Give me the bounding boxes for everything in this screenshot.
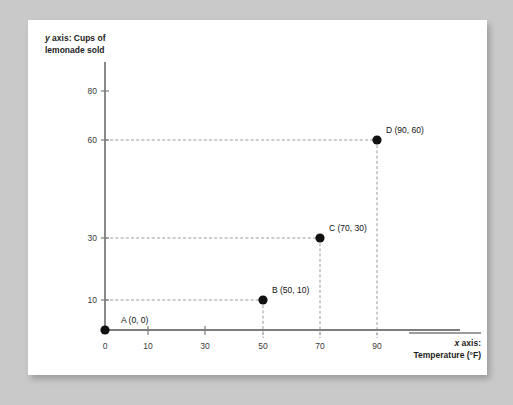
- y-axis-title-line2: lemonade sold: [45, 45, 105, 55]
- data-point-d: [372, 135, 381, 144]
- y-axis-title: y axis: Cups of lemonade sold: [45, 33, 105, 56]
- point-label-d: D (90, 60): [386, 125, 424, 135]
- x-tick-label-30: 30: [193, 341, 217, 351]
- chart-card: y axis: Cups of lemonade sold x axis: Te…: [28, 20, 487, 375]
- y-tick-label-10: 10: [75, 295, 97, 305]
- y-tick-label-60: 60: [75, 135, 97, 145]
- x-tick-label-90: 90: [365, 341, 389, 351]
- y-axis-title-prefix-rest: axis:: [50, 33, 74, 43]
- data-point-c: [315, 233, 324, 242]
- y-tick-label-30: 30: [75, 233, 97, 243]
- x-tick-label-70: 70: [308, 341, 332, 351]
- scatter-plot: y axis: Cups of lemonade sold x axis: Te…: [28, 20, 487, 375]
- x-axis-title-prefix-rest: axis:: [459, 338, 481, 348]
- data-point-a: [100, 325, 109, 334]
- plot-canvas: [28, 20, 487, 375]
- point-label-b: B (50, 10): [272, 285, 309, 295]
- x-tick-label-50: 50: [251, 341, 275, 351]
- y-tick-label-80: 80: [75, 86, 97, 96]
- x-tick-label-0: 0: [93, 341, 117, 351]
- x-axis-title-line2: Temperature (°F): [414, 350, 481, 360]
- y-axis-title-line1: Cups of: [74, 33, 106, 43]
- point-label-a: A (0, 0): [121, 315, 148, 325]
- screenshot-root: y axis: Cups of lemonade sold x axis: Te…: [0, 0, 513, 405]
- x-tick-label-10: 10: [136, 341, 160, 351]
- x-axis-title: x axis: Temperature (°F): [409, 338, 481, 361]
- data-point-b: [258, 295, 267, 304]
- point-label-c: C (70, 30): [329, 223, 367, 233]
